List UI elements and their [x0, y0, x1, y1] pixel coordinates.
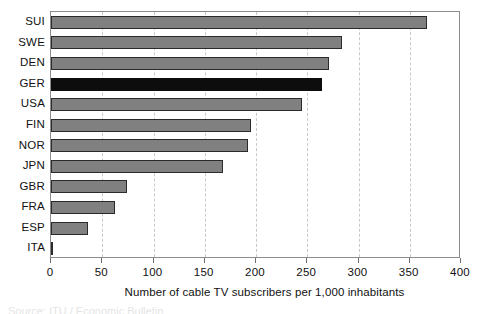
- bar-row[interactable]: [51, 156, 223, 177]
- x-tick-label: 250: [296, 266, 316, 278]
- tick-mark: [204, 258, 205, 263]
- category-label-nor: NOR: [0, 135, 45, 156]
- bar-row[interactable]: [51, 238, 53, 259]
- bar-row[interactable]: [51, 12, 427, 33]
- bar-den[interactable]: [51, 57, 329, 70]
- x-tick-label: 300: [348, 266, 368, 278]
- tick-mark: [460, 258, 461, 263]
- x-axis-tick-marks: [50, 258, 460, 264]
- plot-area: [50, 11, 460, 258]
- category-axis-labels: SUISWEDENGERUSAFINNORJPNGBRFRAESPITA: [0, 11, 45, 258]
- x-tick-label: 150: [194, 266, 214, 278]
- category-label-esp: ESP: [0, 217, 45, 238]
- x-axis-title-text: Number of cable TV subscribers per 1,000…: [125, 286, 405, 298]
- x-tick-label: 50: [95, 266, 108, 278]
- bar-ita[interactable]: [51, 242, 53, 255]
- bar-row[interactable]: [51, 177, 127, 198]
- category-label-fra: FRA: [0, 196, 45, 217]
- x-tick-label: 350: [399, 266, 419, 278]
- bar-esp[interactable]: [51, 222, 88, 235]
- x-tick-label: 200: [245, 266, 265, 278]
- bar-row[interactable]: [51, 218, 88, 239]
- x-tick-label: 0: [47, 266, 54, 278]
- tick-mark: [101, 258, 102, 263]
- category-label-ita: ITA: [0, 237, 45, 258]
- bar-row[interactable]: [51, 33, 342, 54]
- bar-fin[interactable]: [51, 119, 251, 132]
- bar-fra[interactable]: [51, 201, 115, 214]
- bar-swe[interactable]: [51, 36, 342, 49]
- bars-layer: [51, 12, 459, 257]
- bar-row[interactable]: [51, 136, 248, 157]
- x-tick-label: 100: [143, 266, 163, 278]
- tick-mark: [50, 258, 51, 263]
- bar-gbr[interactable]: [51, 180, 127, 193]
- tick-mark: [153, 258, 154, 263]
- bar-row[interactable]: [51, 94, 302, 115]
- tick-mark: [255, 258, 256, 263]
- category-label-gbr: GBR: [0, 176, 45, 197]
- category-label-sui: SUI: [0, 11, 45, 32]
- bar-row[interactable]: [51, 197, 115, 218]
- bar-sui[interactable]: [51, 16, 427, 29]
- category-label-ger: GER: [0, 73, 45, 94]
- category-label-den: DEN: [0, 52, 45, 73]
- bar-ger[interactable]: [51, 78, 322, 91]
- category-label-jpn: JPN: [0, 155, 45, 176]
- category-label-swe: SWE: [0, 32, 45, 53]
- tick-mark: [358, 258, 359, 263]
- bar-row[interactable]: [51, 115, 251, 136]
- category-label-fin: FIN: [0, 114, 45, 135]
- x-axis-tick-labels: 050100150200250300350400: [0, 266, 481, 282]
- tick-mark: [306, 258, 307, 263]
- scan-artifact-text: Source: ITU / Economic Bulletin: [8, 305, 208, 314]
- tick-mark: [409, 258, 410, 263]
- x-axis-title: Number of cable TV subscribers per 1,000…: [0, 286, 481, 298]
- x-tick-label: 400: [450, 266, 470, 278]
- bar-chart: SUISWEDENGERUSAFINNORJPNGBRFRAESPITA 050…: [0, 0, 481, 314]
- category-label-usa: USA: [0, 93, 45, 114]
- bar-nor[interactable]: [51, 139, 248, 152]
- bar-row[interactable]: [51, 74, 322, 95]
- bar-row[interactable]: [51, 53, 329, 74]
- bar-usa[interactable]: [51, 98, 302, 111]
- bar-jpn[interactable]: [51, 160, 223, 173]
